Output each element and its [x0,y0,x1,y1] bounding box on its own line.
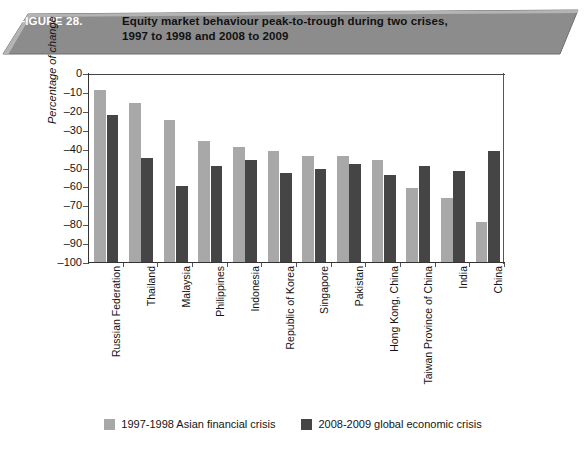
y-axis-tick-label: –70 [38,199,82,211]
y-axis-tick-label: –10 [38,86,82,98]
y-axis-tick-label: –20 [38,105,82,117]
x-axis-category-label: Philippines [214,266,226,317]
y-axis-tick [83,169,88,170]
x-axis-category-label: China [492,266,504,293]
plot-right-border [503,73,504,264]
x-axis-category-label: Taiwan Province of China [422,266,434,384]
bar-series2 [349,164,361,262]
legend-entry: 2008-2009 global economic crisis [301,418,481,430]
y-axis-tick-label: –100 [38,256,82,268]
bar-series1 [441,198,453,262]
legend-label: 2008-2009 global economic crisis [318,418,481,430]
banner-text-group: FIGURE 28. Equity market behaviour peak-… [18,14,558,43]
y-axis-line [88,73,89,264]
bar-series1 [476,222,488,262]
x-axis-category-labels: Russian FederationThailandMalaysiaPhilip… [88,266,508,396]
bar-series2 [107,115,119,262]
bar-series2 [211,166,223,262]
y-axis-tick-label: –80 [38,218,82,230]
y-axis-tick [83,206,88,207]
bar-series2 [315,169,327,262]
bar-series2 [419,166,431,262]
x-axis-category-label: India [457,266,469,289]
bar-series2 [488,151,500,263]
legend-entry: 1997-1998 Asian financial crisis [104,418,275,430]
x-axis-category-label: Singapore [318,266,330,314]
bar-series2 [141,158,153,262]
bar-series1 [198,141,210,262]
y-axis-tick-label: –40 [38,143,82,155]
x-axis-category-label: Republic of Korea [284,266,296,349]
x-axis-category-label: Indonesia [249,266,261,312]
x-axis-category-label: Malaysia [180,266,192,307]
y-axis-tick-label: –60 [38,180,82,192]
bar-series1 [302,156,314,262]
y-axis-title: Percentage of change [46,16,58,124]
plot-top-border [88,74,505,75]
y-axis-tick [83,244,88,245]
bar-series1 [268,151,280,263]
y-axis-tick [83,150,88,151]
y-axis-tick-label: –50 [38,162,82,174]
bar-series2 [280,173,292,262]
bar-series1 [337,156,349,262]
bar-series2 [245,160,257,262]
y-axis-tick [83,263,88,264]
bar-series1 [372,160,384,262]
figure-caption: Equity market behaviour peak-to-trough d… [122,14,448,43]
y-axis-tick-label: –90 [38,237,82,249]
y-axis-tick-label: –30 [38,124,82,136]
bar-series2 [176,186,188,262]
y-axis-tick [83,112,88,113]
figure-number-label: FIGURE 28. [18,14,122,27]
y-axis-tick [83,187,88,188]
bar-series2 [453,171,465,262]
y-axis-tick [83,131,88,132]
legend-color-swatch [301,419,312,430]
x-axis-category-label: Hong Kong, China [388,266,400,352]
y-axis-tick [83,74,88,75]
legend-color-swatch [104,419,115,430]
bar-series1 [406,188,418,262]
x-axis-category-label: Russian Federation [110,266,122,357]
x-axis-category-label: Thailand [145,266,157,306]
chart-legend: 1997-1998 Asian financial crisis2008-200… [0,418,586,430]
figure-title-banner: FIGURE 28. Equity market behaviour peak-… [0,4,586,62]
y-axis-tick [83,225,88,226]
y-axis-tick-label: 0 [38,67,82,79]
bar-series1 [129,103,141,262]
bar-series1 [164,120,176,262]
chart-plot-area: Percentage of change [88,74,504,263]
y-axis-tick [83,93,88,94]
bar-series1 [233,147,245,262]
x-axis-category-label: Pakistan [353,266,365,306]
bar-series2 [384,175,396,262]
legend-label: 1997-1998 Asian financial crisis [121,418,275,430]
bar-series1 [94,90,106,262]
